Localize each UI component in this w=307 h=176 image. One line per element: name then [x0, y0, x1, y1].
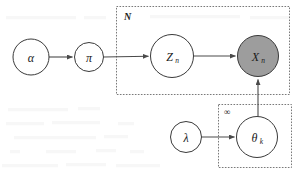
node-lambda-label: λ	[182, 131, 188, 145]
node-x-n-subscript: n	[261, 56, 265, 65]
plate-n-label: N	[123, 11, 132, 22]
node-pi-label: π	[86, 51, 93, 65]
node-z-n-subscript: n	[175, 56, 179, 65]
node-alpha[interactable]: α	[13, 39, 49, 75]
node-x-n[interactable]: X n	[238, 36, 279, 77]
node-x-n-label: X	[251, 50, 260, 64]
edge-pi-to-zn	[104, 56, 149, 57]
node-z-n[interactable]: Z n	[151, 35, 194, 78]
node-lambda[interactable]: λ	[171, 122, 202, 153]
node-theta-k-label: θ	[252, 131, 258, 145]
node-pi[interactable]: π	[75, 43, 104, 72]
node-alpha-label: α	[28, 51, 35, 65]
graphical-model-svg: N ∞ α π Z n X	[0, 0, 307, 176]
node-theta-k[interactable]: θ k	[237, 117, 278, 158]
plate-diagram-canvas: N ∞ α π Z n X	[0, 0, 307, 176]
plate-infinity-label: ∞	[224, 107, 230, 117]
node-z-n-label: Z	[166, 50, 173, 64]
